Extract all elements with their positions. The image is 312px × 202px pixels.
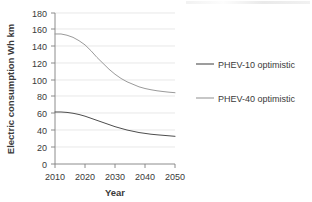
y-tick-label: 0 (42, 160, 47, 170)
y-tick-label: 20 (37, 143, 47, 153)
y-tick-label: 120 (32, 59, 47, 69)
y-tick-label: 160 (32, 25, 47, 35)
y-tick-label: 40 (37, 126, 47, 136)
series-line-phev-10 (55, 112, 175, 136)
x-tick-labels: 2010 2020 2030 2040 2050 (45, 172, 185, 182)
x-tick-marks (55, 164, 175, 168)
x-axis-title: Year (105, 187, 125, 198)
x-tick-label: 2010 (45, 172, 65, 182)
top-edge-artifact (186, 1, 310, 4)
x-tick-label: 2030 (105, 172, 125, 182)
x-tick-label: 2040 (135, 172, 155, 182)
y-tick-label: 60 (37, 109, 47, 119)
y-tick-label: 100 (32, 76, 47, 86)
y-tick-label: 180 (32, 9, 47, 19)
legend: PHEV-10 optimistic PHEV-40 optimistic (196, 60, 296, 104)
series-line-phev-40 (55, 34, 175, 93)
y-tick-marks (51, 13, 55, 164)
y-tick-labels: 180 160 140 120 100 80 60 40 20 0 (32, 9, 47, 170)
chart-container: 180 160 140 120 100 80 60 40 20 0 2010 2… (0, 0, 312, 202)
line-chart: 180 160 140 120 100 80 60 40 20 0 2010 2… (0, 0, 312, 202)
x-tick-label: 2050 (165, 172, 185, 182)
legend-label-phev-40: PHEV-40 optimistic (218, 94, 296, 104)
legend-label-phev-10: PHEV-10 optimistic (218, 60, 296, 70)
y-tick-label: 140 (32, 42, 47, 52)
y-axis-title: Electric consumption Wh km (5, 24, 16, 154)
y-tick-label: 80 (37, 92, 47, 102)
x-tick-label: 2020 (75, 172, 95, 182)
